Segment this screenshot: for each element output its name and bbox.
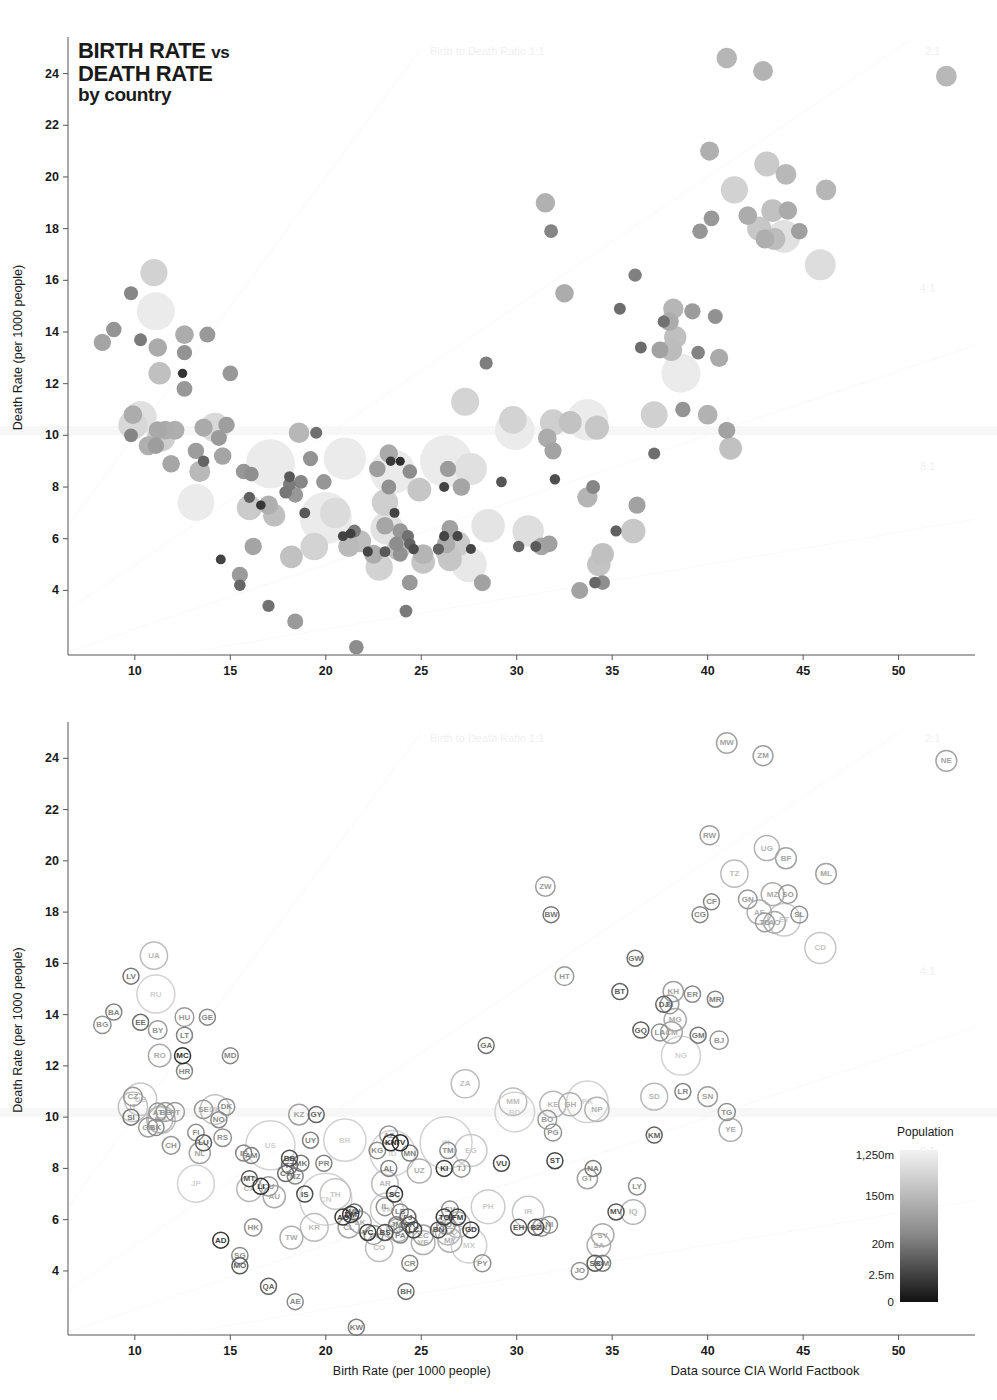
bubble-point[interactable] [692, 223, 708, 239]
country-marker[interactable]: LY [628, 1178, 645, 1195]
bubble-point[interactable] [635, 342, 647, 354]
country-marker[interactable]: ZA [451, 1070, 479, 1098]
country-marker[interactable]: MR [707, 991, 723, 1007]
country-marker[interactable]: AD [213, 1232, 229, 1248]
country-marker[interactable]: ZM [753, 746, 773, 766]
country-marker[interactable]: SD [641, 1083, 668, 1110]
bubble-point[interactable] [379, 546, 390, 557]
bubble-point[interactable] [439, 531, 449, 541]
country-marker[interactable]: HK [245, 1219, 262, 1236]
bubble-point[interactable] [234, 579, 246, 591]
bubble-point[interactable] [816, 180, 837, 201]
country-marker[interactable]: GM [690, 1027, 706, 1043]
bubble-point[interactable] [451, 388, 479, 416]
bubble-point[interactable] [346, 529, 356, 539]
bubble-point[interactable] [480, 356, 493, 369]
country-marker[interactable]: JO [571, 1262, 588, 1279]
bubble-point[interactable] [721, 176, 748, 203]
bubble-point[interactable] [376, 517, 394, 535]
country-marker[interactable]: KH [663, 981, 683, 1001]
bubble-point[interactable] [211, 430, 227, 446]
country-marker[interactable]: CD [805, 933, 836, 964]
bubble-point[interactable] [719, 437, 742, 460]
bubble-point[interactable] [544, 442, 561, 459]
country-marker[interactable]: MO [232, 1258, 248, 1274]
country-marker[interactable]: HT [555, 967, 574, 986]
country-marker[interactable]: KM [646, 1127, 662, 1143]
bubble-point[interactable] [148, 437, 164, 453]
bubble-point[interactable] [222, 365, 238, 381]
country-marker[interactable]: IS [297, 1186, 313, 1202]
bubble-point[interactable] [698, 405, 718, 425]
country-marker[interactable]: KR [300, 1214, 328, 1242]
bubble-point[interactable] [585, 416, 609, 440]
bubble-point[interactable] [279, 486, 292, 499]
country-marker[interactable]: LT [176, 1027, 192, 1043]
country-marker[interactable]: RS [214, 1129, 232, 1147]
bubble-point[interactable] [559, 411, 582, 434]
country-marker[interactable]: UZ [407, 1159, 431, 1183]
bubble-point[interactable] [555, 284, 574, 303]
country-marker[interactable]: MZ [761, 883, 784, 906]
country-marker[interactable]: QA [260, 1278, 276, 1294]
bubble-point[interactable] [675, 402, 690, 417]
bubble-point[interactable] [776, 164, 797, 185]
country-marker[interactable]: TV [392, 1135, 408, 1151]
country-marker[interactable]: GQ [633, 1022, 649, 1038]
bubble-point[interactable] [320, 498, 350, 528]
bubble-point[interactable] [536, 193, 555, 212]
country-marker[interactable]: GN [738, 890, 757, 909]
country-marker[interactable]: PR [316, 1155, 332, 1171]
bubble-point[interactable] [162, 455, 180, 473]
bubble-point[interactable] [433, 543, 444, 554]
bubble-point[interactable] [408, 544, 418, 554]
country-marker[interactable]: BY [148, 1021, 167, 1040]
country-marker[interactable]: MV [608, 1204, 624, 1220]
bubble-point[interactable] [303, 451, 318, 466]
bubble-point[interactable] [936, 66, 957, 87]
bubble-point[interactable] [407, 478, 431, 502]
bubble-point[interactable] [700, 142, 719, 161]
bubble-point[interactable] [245, 538, 262, 555]
bubble-point[interactable] [148, 362, 171, 385]
country-marker[interactable]: RU [137, 975, 175, 1013]
country-marker[interactable]: GW [627, 950, 643, 966]
bubble-point[interactable] [284, 471, 295, 482]
country-marker[interactable]: CF [703, 894, 719, 910]
bubble-point[interactable] [177, 381, 193, 397]
bubble-point[interactable] [621, 519, 646, 544]
country-marker[interactable]: GE [199, 1009, 215, 1025]
bubble-point[interactable] [244, 492, 255, 503]
bubble-point[interactable] [805, 249, 836, 280]
bubble-point[interactable] [453, 478, 470, 495]
country-marker[interactable]: BH [398, 1283, 414, 1299]
country-marker[interactable]: BF [776, 848, 797, 869]
country-marker[interactable]: CR [402, 1255, 418, 1271]
country-marker[interactable]: ZW [536, 877, 555, 896]
bubble-point[interactable] [369, 461, 386, 478]
bubble-point[interactable] [710, 349, 728, 367]
bubble-point[interactable] [124, 286, 138, 300]
country-marker[interactable]: ER [684, 986, 700, 1002]
bubble-point[interactable] [628, 268, 641, 281]
bubble-point[interactable] [396, 457, 405, 466]
bubble-point[interactable] [199, 327, 215, 343]
bubble-point[interactable] [610, 525, 621, 536]
bubble-point[interactable] [386, 456, 396, 466]
bubble-point[interactable] [738, 206, 757, 225]
bubble-point[interactable] [198, 455, 210, 467]
bubble-point[interactable] [389, 537, 404, 552]
country-marker[interactable]: JP [178, 1165, 215, 1202]
country-marker[interactable]: SL [791, 906, 808, 923]
bubble-point[interactable] [256, 500, 265, 509]
bubble-point[interactable] [194, 418, 212, 436]
bubble-point[interactable] [381, 480, 396, 495]
bubble-point[interactable] [779, 201, 797, 219]
country-marker[interactable]: NE [936, 750, 957, 771]
country-marker[interactable]: SC [387, 1186, 403, 1202]
country-marker[interactable]: MW [717, 733, 738, 754]
bubble-point[interactable] [791, 223, 808, 240]
country-marker[interactable]: BA [106, 1004, 122, 1020]
country-marker[interactable]: SO [779, 885, 797, 903]
bubble-point[interactable] [124, 428, 138, 442]
